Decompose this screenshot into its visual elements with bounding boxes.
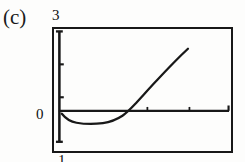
y-axis-top-label: 3 (52, 8, 60, 23)
plot-frame (52, 27, 233, 153)
zero-baseline (59, 105, 229, 110)
y-axis-spine (56, 31, 64, 142)
y-axis-zero-label: 0 (36, 107, 44, 122)
x-axis-left-label: 1 (58, 153, 66, 162)
plot-area (54, 29, 231, 151)
panel-label: (c) (3, 7, 26, 28)
data-curve (62, 49, 188, 124)
figure-panel-c: (c) 3 0 1 (0, 0, 245, 162)
